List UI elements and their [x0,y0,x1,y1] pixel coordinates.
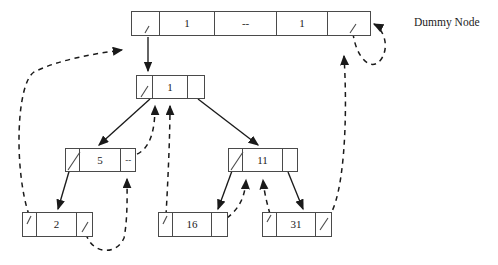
leaf-2-cell-0[interactable] [23,213,37,236]
node-5-cell-2[interactable]: -- [121,149,135,171]
leaf-16-cell-0[interactable] [159,213,173,236]
node-root-1[interactable]: 1 [136,75,205,99]
leaf-2-cell-2[interactable] [77,213,92,236]
edge-root-to-5 [99,99,150,145]
diagram-canvas: 1 -- 1 Dummy Node 1 5 -- 11 2 16 31 [0,0,498,265]
node-root-1-cell-1[interactable]: 1 [153,76,189,98]
backedge-31-to-11 [263,180,270,214]
node-root-1-cell-0[interactable] [137,76,153,98]
node-5-cell-1[interactable]: 5 [80,149,122,171]
leaf-31-cell-1[interactable]: 31 [277,213,317,236]
node-11[interactable]: 11 [228,148,298,172]
backedge-2-to-dummy [19,50,122,215]
dummy-node-cell-1[interactable]: 1 [160,12,216,35]
backedge-16-to-root [166,106,170,215]
leaf-31[interactable]: 31 [262,212,332,237]
leaf-31-cell-0[interactable] [263,213,277,236]
dummy-node-cell-2[interactable]: -- [215,12,276,35]
backedge-16-to-11 [227,180,246,218]
backedge-31-to-dummy [328,56,345,218]
dummy-node-cell-0[interactable] [132,12,160,35]
leaf-16-cell-1[interactable]: 16 [173,213,213,236]
node-5-cell-0[interactable] [66,149,80,171]
dummy-node-label: Dummy Node [414,16,479,28]
leaf-16[interactable]: 16 [158,212,228,237]
leaf-2-cell-1[interactable]: 2 [37,213,78,236]
node-root-1-cell-2[interactable] [188,76,204,98]
leaf-2[interactable]: 2 [22,212,93,237]
leaf-16-cell-2[interactable] [212,213,227,236]
dummy-node[interactable]: 1 -- 1 [131,11,371,36]
node-11-cell-0[interactable] [229,149,243,171]
leaf-31-cell-2[interactable] [316,213,331,236]
node-5[interactable]: 5 -- [65,148,136,172]
edge-11-to-31 [288,172,303,209]
dummy-node-cell-4[interactable] [328,12,370,35]
dummy-node-cell-3[interactable]: 1 [277,12,329,35]
node-11-cell-2[interactable] [283,149,297,171]
node-11-cell-1[interactable]: 11 [243,149,284,171]
edge-root-to-11 [198,99,258,145]
